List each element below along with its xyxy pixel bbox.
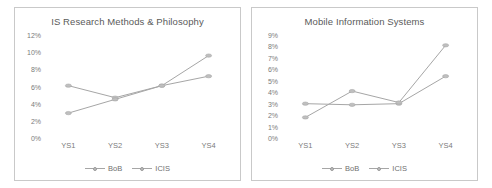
data-point: [112, 98, 118, 101]
x-axis-tick-label: YS1: [298, 142, 312, 150]
chart-title: IS Research Methods & Philosophy: [15, 16, 240, 27]
y-axis-tick-label: 4%: [268, 89, 278, 96]
x-axis-tick-label: YS4: [439, 142, 453, 150]
legend-label: ICIS: [392, 164, 407, 173]
y-axis-tick-label: 8%: [268, 43, 278, 50]
legend-swatch-icon: [132, 165, 152, 172]
series-line-icis: [305, 45, 445, 117]
legend-swatch-icon: [369, 165, 389, 172]
y-axis-tick-label: 2%: [268, 112, 278, 119]
y-axis-tick-label: 4%: [31, 100, 41, 107]
x-axis-tick-label: YS3: [392, 142, 406, 150]
chart-figure: IS Research Methods & Philosophy 0%2%4%6…: [0, 0, 492, 188]
data-point: [443, 75, 449, 78]
legend-label: ICIS: [155, 164, 170, 173]
legend-label: BoB: [108, 164, 122, 173]
x-axis: YS1YS2YS3YS4: [282, 142, 469, 154]
y-axis-tick-label: 9%: [268, 32, 278, 39]
y-axis-tick-label: 0%: [268, 135, 278, 142]
y-axis-tick-label: 10%: [27, 49, 41, 56]
y-axis: 0%1%2%3%4%5%6%7%8%9%: [252, 35, 280, 138]
chart-panel-mobile-information-systems: Mobile Information Systems 0%1%2%3%4%5%6…: [251, 7, 478, 181]
y-axis-tick-label: 8%: [31, 66, 41, 73]
data-point: [349, 103, 355, 106]
y-axis: 0%2%4%6%8%10%12%: [15, 35, 43, 138]
x-axis-tick-label: YS4: [202, 142, 216, 150]
y-axis-tick-label: 6%: [31, 83, 41, 90]
series-line-icis: [68, 56, 208, 114]
x-axis-tick-label: YS2: [108, 142, 122, 150]
y-axis-tick-label: 7%: [268, 54, 278, 61]
data-point: [443, 44, 449, 47]
plot-area: [282, 35, 469, 138]
legend-entry-bob[interactable]: BoB: [322, 164, 359, 173]
x-axis: YS1YS2YS3YS4: [45, 142, 232, 154]
y-axis-tick-label: 2%: [31, 117, 41, 124]
plot-area: [45, 35, 232, 138]
x-axis-tick-label: YS3: [155, 142, 169, 150]
legend-entry-icis[interactable]: ICIS: [132, 164, 170, 173]
series-lines: [282, 35, 469, 138]
data-point: [206, 54, 212, 57]
y-axis-tick-label: 0%: [31, 135, 41, 142]
legend-swatch-icon: [85, 165, 105, 172]
series-lines: [45, 35, 232, 138]
data-point: [302, 102, 308, 105]
data-point: [206, 75, 212, 78]
data-point: [302, 116, 308, 119]
x-axis-tick-label: YS2: [345, 142, 359, 150]
legend-label: BoB: [345, 164, 359, 173]
x-axis-tick-label: YS1: [61, 142, 75, 150]
data-point: [396, 101, 402, 104]
chart-legend: BoBICIS: [252, 164, 477, 173]
series-line-bob: [305, 76, 445, 105]
legend-swatch-icon: [322, 165, 342, 172]
y-axis-tick-label: 12%: [27, 32, 41, 39]
data-point: [159, 84, 165, 87]
chart-legend: BoBICIS: [15, 164, 240, 173]
legend-entry-bob[interactable]: BoB: [85, 164, 122, 173]
y-axis-tick-label: 6%: [268, 66, 278, 73]
chart-title: Mobile Information Systems: [252, 16, 477, 27]
series-line-bob: [68, 76, 208, 97]
legend-entry-icis[interactable]: ICIS: [369, 164, 407, 173]
y-axis-tick-label: 1%: [268, 123, 278, 130]
data-point: [349, 89, 355, 92]
data-point: [65, 84, 71, 87]
y-axis-tick-label: 3%: [268, 100, 278, 107]
y-axis-tick-label: 5%: [268, 77, 278, 84]
data-point: [65, 111, 71, 114]
chart-panel-is-research-methods: IS Research Methods & Philosophy 0%2%4%6…: [14, 7, 241, 181]
